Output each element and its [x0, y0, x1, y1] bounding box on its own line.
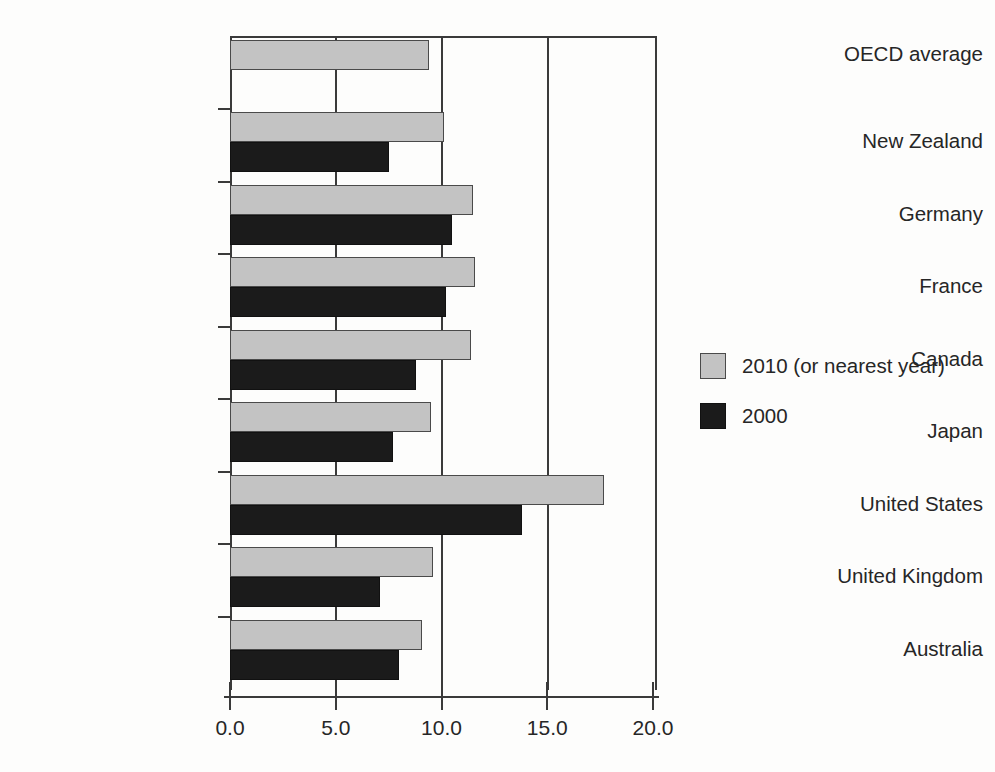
legend-item-2010: 2010 (or nearest year): [700, 352, 990, 380]
legend-label-2000: 2000: [742, 404, 788, 428]
y-tick-3: [218, 326, 232, 328]
legend-swatch-icon-2000: [700, 403, 726, 429]
y-tick-2: [218, 253, 232, 255]
bar-2000: [230, 360, 416, 390]
bar-2010: [230, 40, 429, 70]
bar-2010: [230, 547, 433, 577]
bar-2000: [230, 577, 380, 607]
y-tick-5: [218, 471, 232, 473]
x-tick-0: [229, 682, 231, 710]
x-axis-label-2: 10.0: [397, 716, 487, 740]
chart-figure: OECD averageNew ZealandGermanyFranceCana…: [0, 0, 995, 772]
y-axis-label-0: OECD average: [779, 42, 995, 66]
bar-2000: [230, 432, 393, 462]
bar-group: [230, 185, 653, 245]
legend-item-2000: 2000: [700, 402, 990, 430]
chart-legend: 2010 (or nearest year) 2000: [700, 352, 990, 452]
x-tick-2: [441, 682, 443, 710]
bar-2010: [230, 330, 471, 360]
bar-group: [230, 257, 653, 317]
bar-2010: [230, 620, 422, 650]
bar-group: [230, 402, 653, 462]
y-axis-label-3: France: [779, 274, 995, 298]
bar-group: [230, 620, 653, 680]
bar-group: [230, 40, 653, 70]
y-axis-label-7: United Kingdom: [779, 564, 995, 588]
y-tick-1: [218, 181, 232, 183]
legend-swatch-icon-2010: [700, 353, 726, 379]
bar-group: [230, 475, 653, 535]
y-axis-label-1: New Zealand: [779, 129, 995, 153]
bar-2010: [230, 185, 473, 215]
bar-group: [230, 330, 653, 390]
y-tick-7: [218, 616, 232, 618]
x-axis-label-0: 0.0: [185, 716, 275, 740]
bar-2000: [230, 142, 389, 172]
bar-2000: [230, 650, 399, 680]
bar-2010: [230, 402, 431, 432]
bar-2010: [230, 257, 475, 287]
y-tick-0: [218, 108, 232, 110]
chart-title: [0, 0, 995, 6]
bar-2010: [230, 112, 444, 142]
bar-group: [230, 112, 653, 172]
bar-group: [230, 547, 653, 607]
y-tick-4: [218, 398, 232, 400]
bar-2010: [230, 475, 604, 505]
x-tick-3: [546, 682, 548, 710]
y-axis-label-2: Germany: [779, 202, 995, 226]
y-tick-6: [218, 543, 232, 545]
bar-2000: [230, 287, 446, 317]
y-axis-label-8: Australia: [779, 637, 995, 661]
bar-2000: [230, 505, 522, 535]
x-tick-1: [335, 682, 337, 710]
x-tick-4: [652, 682, 654, 710]
x-axis-label-1: 5.0: [291, 716, 381, 740]
x-axis-label-3: 15.0: [502, 716, 592, 740]
x-axis-label-4: 20.0: [608, 716, 698, 740]
y-axis-label-6: United States: [779, 492, 995, 516]
legend-label-2010: 2010 (or nearest year): [742, 354, 945, 378]
bar-2000: [230, 215, 452, 245]
